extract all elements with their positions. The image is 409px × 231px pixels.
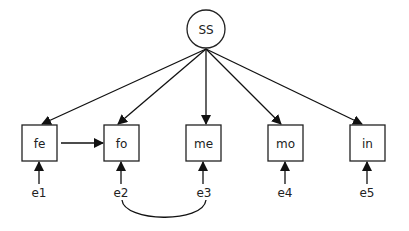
latent-label-ss: SS [198,23,213,37]
observed-label-fo: fo [116,137,128,151]
arrow-ss-mo [206,49,281,124]
covariance-e2-e3 [122,200,206,217]
latent-node-ss: SS [187,10,225,48]
error-label-e3: e3 [196,186,211,200]
observed-label-fe: fe [34,137,46,151]
error-arrows [39,162,367,184]
observed-label-mo: mo [276,137,295,151]
arrow-ss-fo [118,49,206,124]
observed-node-me: me [186,125,221,161]
loading-arrows [42,49,362,124]
observed-node-fo: fo [104,125,139,161]
error-label-e2: e2 [113,186,128,200]
observed-label-me: me [194,137,213,151]
arrow-ss-fe [42,49,206,124]
observed-node-fe: fe [22,125,57,161]
error-label-e5: e5 [359,186,374,200]
observed-node-in: in [350,125,385,161]
error-label-e4: e4 [277,186,292,200]
observed-label-in: in [362,137,373,151]
arrow-ss-in [206,49,362,124]
path-diagram: SS fe fo me mo in e1 e2 e3 e4 [0,0,409,231]
error-label-e1: e1 [31,186,46,200]
observed-node-mo: mo [268,125,303,161]
